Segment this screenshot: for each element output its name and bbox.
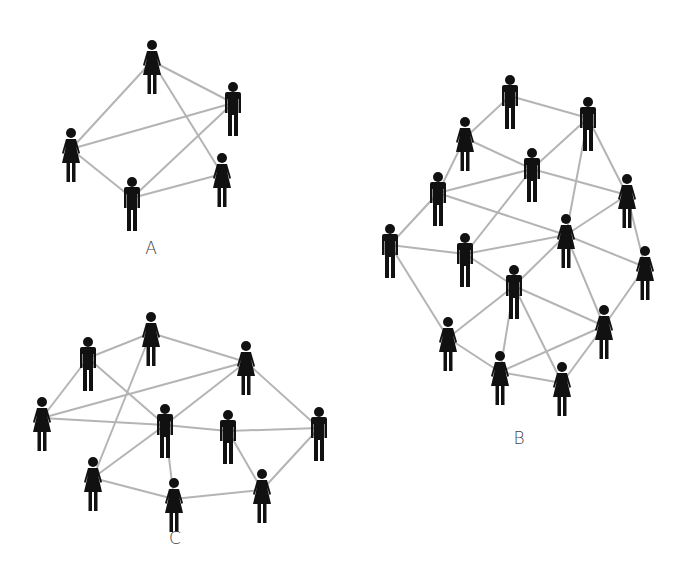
network-label-b: B — [513, 428, 524, 448]
nodes-layer — [33, 40, 654, 532]
connection-edge — [42, 362, 246, 418]
connection-edge — [448, 338, 500, 372]
male-person-icon — [124, 177, 140, 231]
female-person-icon — [213, 153, 231, 207]
male-person-icon — [311, 407, 327, 461]
male-person-icon — [457, 233, 473, 287]
network-a-nodes — [62, 40, 241, 231]
male-person-icon — [225, 82, 241, 136]
connection-edge — [465, 169, 532, 254]
connection-edge — [390, 245, 465, 254]
connection-edge — [165, 425, 228, 431]
network-label-c: C — [169, 528, 181, 548]
female-person-icon — [84, 457, 102, 511]
connection-edge — [262, 428, 319, 490]
network-c-nodes — [33, 312, 327, 532]
edges-layer — [42, 61, 645, 499]
connection-edge — [390, 245, 448, 338]
female-person-icon — [142, 312, 160, 366]
connection-edge — [151, 333, 246, 362]
social-network-diagram — [0, 0, 678, 585]
connection-edge — [93, 478, 174, 499]
connection-edge — [438, 169, 532, 193]
network-a-edges — [71, 61, 233, 198]
connection-edge — [174, 490, 262, 499]
female-person-icon — [557, 214, 575, 268]
connection-edge — [500, 372, 562, 383]
network-label-a: A — [145, 238, 157, 258]
connection-edge — [152, 61, 222, 174]
female-person-icon — [62, 128, 80, 182]
female-person-icon — [165, 478, 183, 532]
connection-edge — [465, 138, 532, 169]
connection-edge — [165, 362, 246, 425]
male-person-icon — [80, 337, 96, 391]
female-person-icon — [237, 341, 255, 395]
connection-edge — [438, 193, 566, 235]
connection-edge — [246, 362, 319, 428]
female-person-icon — [439, 317, 457, 371]
connection-edge — [88, 358, 165, 425]
connection-edge — [510, 96, 588, 118]
male-person-icon — [524, 148, 540, 202]
male-person-icon — [220, 410, 236, 464]
female-person-icon — [33, 397, 51, 451]
connection-edge — [448, 286, 514, 338]
connection-edge — [514, 286, 562, 383]
connection-edge — [588, 118, 627, 195]
connection-edge — [71, 149, 132, 198]
connection-edge — [500, 326, 604, 372]
female-person-icon — [491, 351, 509, 405]
connection-edge — [42, 418, 165, 425]
male-person-icon — [502, 75, 518, 129]
male-person-icon — [157, 404, 173, 458]
male-person-icon — [382, 224, 398, 278]
female-person-icon — [143, 40, 161, 94]
female-person-icon — [636, 246, 654, 300]
male-person-icon — [506, 265, 522, 319]
connection-edge — [532, 169, 627, 195]
connection-edge — [228, 428, 319, 431]
connection-edge — [71, 61, 152, 149]
connection-edge — [566, 195, 627, 235]
female-person-icon — [456, 117, 474, 171]
